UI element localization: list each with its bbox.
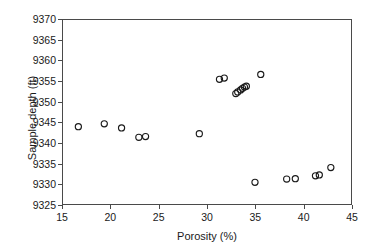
y-tick-mark: [58, 143, 62, 144]
axis-tick-marks: [0, 0, 366, 251]
y-tick-mark: [58, 164, 62, 165]
y-tick-mark: [58, 122, 62, 123]
y-tick-mark: [58, 40, 62, 41]
scatter-plot-figure: 9325933093359340934593509355936093659370…: [0, 0, 366, 251]
y-tick-mark: [58, 60, 62, 61]
x-axis-title: Porosity (%): [62, 230, 352, 242]
x-tick-mark: [255, 205, 256, 209]
y-axis-title: Sample depth (ft): [26, 38, 38, 198]
x-tick-mark: [207, 205, 208, 209]
y-tick-mark: [58, 184, 62, 185]
y-tick-mark: [58, 19, 62, 20]
x-tick-mark: [304, 205, 305, 209]
x-tick-mark: [352, 205, 353, 209]
y-tick-mark: [58, 102, 62, 103]
y-tick-mark: [58, 81, 62, 82]
x-tick-mark: [159, 205, 160, 209]
x-tick-mark: [110, 205, 111, 209]
x-tick-mark: [62, 205, 63, 209]
